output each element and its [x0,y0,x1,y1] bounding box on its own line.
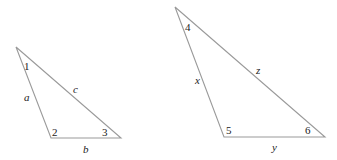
triangles-diagram: 1 2 3 a b c 4 5 6 x y z [0,0,337,160]
triangle-abc-outline [16,47,121,138]
side-z-label: z [255,64,261,76]
angle-5-label: 5 [226,124,232,136]
side-y-label: y [271,141,277,153]
side-a-label: a [24,91,30,103]
angle-2-label: 2 [52,126,58,138]
angle-1-label: 1 [24,60,30,72]
side-b-label: b [83,143,89,155]
side-c-label: c [73,83,78,95]
triangle-xyz-outline [175,7,325,137]
triangle-xyz: 4 5 6 x y z [175,7,325,153]
angle-3-label: 3 [102,126,108,138]
side-x-label: x [194,74,200,86]
triangle-abc: 1 2 3 a b c [16,47,121,155]
angle-4-label: 4 [185,21,191,33]
angle-6-label: 6 [305,124,311,136]
